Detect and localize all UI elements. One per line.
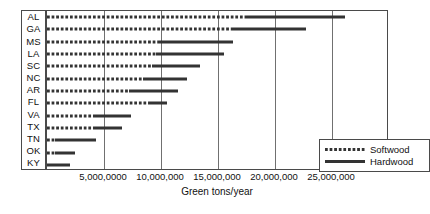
bar-hardwood-ky xyxy=(47,163,70,166)
legend-swatch-hardwood-icon xyxy=(325,160,365,163)
legend-label-hardwood: Hardwood xyxy=(370,157,413,167)
bar-softwood-al xyxy=(47,16,247,19)
x-tick-label-0: 5,000,0000 xyxy=(79,172,127,182)
bar-softwood-ok xyxy=(47,151,55,154)
bar-hardwood-ok xyxy=(55,151,76,154)
bar-softwood-la xyxy=(47,53,156,56)
bar-hardwood-la xyxy=(156,53,223,56)
bar-row-nc xyxy=(47,73,387,85)
bar-hardwood-sc xyxy=(152,65,200,68)
legend-item-softwood: Softwood xyxy=(325,143,424,155)
bar-hardwood-nc xyxy=(143,77,187,80)
bar-hardwood-tx xyxy=(94,126,123,129)
bar-row-la xyxy=(47,48,387,60)
x-tick-label-4: 25,000,000 xyxy=(307,172,355,182)
bar-row-ms xyxy=(47,36,387,48)
y-axis-label-la: LA xyxy=(22,47,45,59)
bar-softwood-ar xyxy=(47,89,129,92)
y-axis-label-tn: TN xyxy=(22,133,45,145)
y-axis-category-labels: ALGAMSLASCNCARFLVATXTNOKKY xyxy=(21,10,46,170)
bar-row-va xyxy=(47,109,387,121)
bar-row-ar xyxy=(47,85,387,97)
legend-label-softwood: Softwood xyxy=(370,145,410,155)
bar-hardwood-ms xyxy=(159,40,233,43)
plot-area: Softwood Hardwood xyxy=(46,10,388,170)
y-axis-label-ky: KY xyxy=(22,157,45,169)
y-axis-label-ok: OK xyxy=(22,145,45,157)
y-axis-label-ar: AR xyxy=(22,84,45,96)
bar-softwood-sc xyxy=(47,65,152,68)
bar-softwood-ga xyxy=(47,28,232,31)
y-axis-label-nc: NC xyxy=(22,72,45,84)
y-axis-label-ms: MS xyxy=(22,35,45,47)
chart-legend: Softwood Hardwood xyxy=(319,139,430,172)
x-tick-label-1: 10,000,000 xyxy=(136,172,184,182)
y-axis-label-al: AL xyxy=(22,11,45,23)
bar-softwood-ms xyxy=(47,40,159,43)
bar-row-tx xyxy=(47,122,387,134)
y-axis-label-tx: TX xyxy=(22,120,45,132)
y-axis-label-sc: SC xyxy=(22,60,45,72)
y-axis-label-ga: GA xyxy=(22,23,45,35)
x-tick-label-2: 15,000,000 xyxy=(193,172,241,182)
y-axis-label-va: VA xyxy=(22,108,45,120)
bar-hardwood-al xyxy=(247,16,345,19)
bar-hardwood-ar xyxy=(129,89,178,92)
bar-row-ga xyxy=(47,23,387,35)
bar-hardwood-tn xyxy=(55,139,96,142)
bar-softwood-tx xyxy=(47,126,94,129)
y-axis-label-fl: FL xyxy=(22,96,45,108)
bar-hardwood-ga xyxy=(232,28,306,31)
bar-softwood-nc xyxy=(47,77,143,80)
legend-item-hardwood: Hardwood xyxy=(325,156,424,168)
bar-row-al xyxy=(47,11,387,23)
bar-hardwood-fl xyxy=(150,102,167,105)
bar-hardwood-va xyxy=(94,114,132,117)
bar-softwood-va xyxy=(47,114,94,117)
x-axis-title: Green tons/year xyxy=(46,187,388,197)
bar-softwood-fl xyxy=(47,102,150,105)
bar-softwood-tn xyxy=(47,139,55,142)
x-tick-label-3: 20,000,000 xyxy=(250,172,298,182)
x-axis-tick-labels: 5,000,000010,000,00015,000,00020,000,000… xyxy=(46,170,388,184)
legend-swatch-softwood-icon xyxy=(325,148,365,151)
bar-row-fl xyxy=(47,97,387,109)
bar-row-sc xyxy=(47,60,387,72)
